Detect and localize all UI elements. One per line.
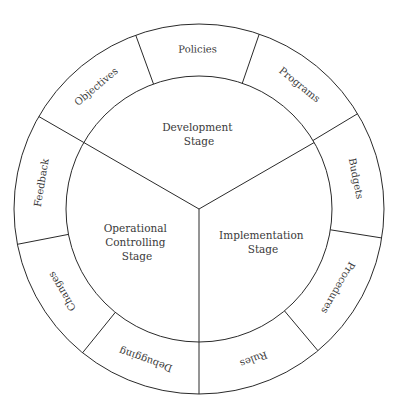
stage-line: Stage [122, 250, 153, 262]
stage-line: Implementation [219, 229, 304, 241]
segment-label-policies: Policies [178, 43, 217, 54]
segment-divider-line [39, 117, 84, 143]
segment-divider-line [284, 311, 317, 351]
stage-divider-line [199, 143, 314, 210]
stage-label-operational: Operational Controlling Stage [104, 222, 170, 262]
management-cycle-diagram: Development Stage Operational Controllin… [0, 0, 397, 416]
segment-label-changes: Changes [46, 270, 78, 313]
segment-label-budgets: Budgets [347, 157, 366, 200]
segment-label-rules: Rules [239, 349, 269, 369]
segment-label-debugging: Debugging [117, 345, 174, 374]
stage-line: Stage [184, 135, 215, 147]
segment-dividers [17, 34, 381, 394]
stage-line: Stage [248, 243, 279, 255]
segment-label-objectives: Objectives [72, 65, 120, 108]
segment-divider-line [242, 34, 259, 83]
stage-line: Development [162, 121, 233, 133]
stage-label-development: Development Stage [162, 121, 236, 147]
segment-label-programs: Programs [277, 65, 322, 105]
stage-line: Operational [104, 222, 168, 234]
segment-divider-line [17, 234, 68, 244]
segment-divider-line [83, 312, 116, 352]
stage-line: Controlling [105, 236, 166, 248]
segment-divider-line [313, 114, 358, 141]
stage-labels: Development Stage Operational Controllin… [104, 121, 307, 262]
stage-divider-line [84, 143, 199, 210]
segment-label-feedback: Feedback [32, 157, 51, 208]
segment-label-procedures: Procedures [319, 260, 357, 316]
segment-divider-line [330, 230, 381, 238]
stage-label-implementation: Implementation Stage [219, 229, 307, 255]
segment-divider-line [136, 35, 154, 84]
